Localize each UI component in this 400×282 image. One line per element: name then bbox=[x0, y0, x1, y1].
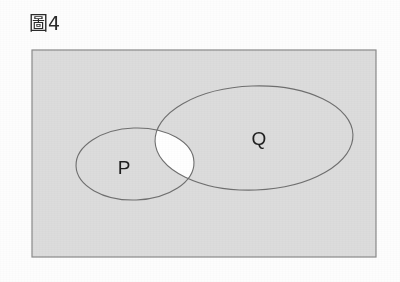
set-label-p: P bbox=[118, 157, 131, 178]
set-label-q: Q bbox=[252, 128, 267, 149]
venn-diagram: P Q bbox=[0, 0, 400, 282]
universal-set-rectangle bbox=[32, 50, 376, 257]
figure-container: 圖4 P Q bbox=[0, 0, 400, 282]
